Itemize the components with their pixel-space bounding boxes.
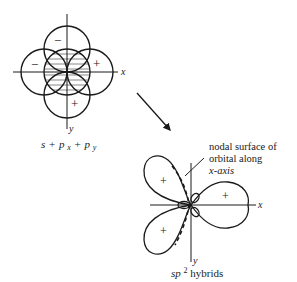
sign-left: − xyxy=(31,57,38,72)
sp2-hybrids: x y + + + nodal surface of orbital along… xyxy=(144,141,277,279)
x-axis-label: x xyxy=(120,66,126,77)
transform-arrow xyxy=(137,93,170,130)
annotation-leader xyxy=(185,158,204,176)
y-axis-label-right: y xyxy=(192,255,198,266)
sign-upper-left: + xyxy=(160,174,167,188)
sign-bottom: + xyxy=(71,96,78,111)
hybrid-lobe-upper-left xyxy=(144,156,191,205)
s-plus-p-orbitals: x y − − + + s + p x + p y xyxy=(13,14,126,152)
orbital-diagram: x y − − + + s + p x + p y xyxy=(0,0,297,282)
y-axis-label: y xyxy=(68,123,74,134)
annotation-line-2: orbital along xyxy=(209,153,263,164)
sign-lower-left: + xyxy=(160,224,167,238)
sign-right: + xyxy=(93,56,100,71)
annotation-line-1: nodal surface of xyxy=(209,141,277,152)
sign-top: − xyxy=(54,33,61,48)
left-caption: s + p x + p y xyxy=(41,138,97,152)
hybrid-lobe-lower-left xyxy=(144,205,191,254)
sign-right-lobe: + xyxy=(222,189,229,203)
x-axis-label-right: x xyxy=(257,199,263,210)
annotation-line-3: x-axis xyxy=(208,165,234,176)
